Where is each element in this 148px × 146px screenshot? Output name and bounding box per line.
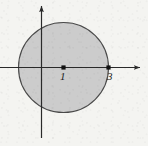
figure-container: 1 3	[0, 0, 148, 146]
coordinate-figure	[0, 0, 148, 146]
right-intercept-label: 3	[107, 71, 113, 82]
right-intercept-point-marker	[106, 65, 110, 69]
center-point-label: 1	[60, 71, 66, 82]
center-point-marker	[61, 65, 65, 69]
